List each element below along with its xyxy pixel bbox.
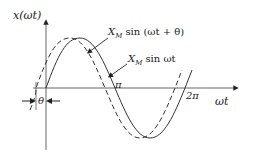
- reference-curve-label: XM sin ωt: [128, 54, 176, 64]
- y-axis-label: x(ωt): [13, 10, 41, 21]
- shifted-curve-label: XM sin (ωt + θ): [108, 27, 184, 37]
- tick-pi-label: π: [115, 80, 122, 90]
- tick-2pi-label: 2π: [186, 91, 199, 101]
- sine-phase-diagram: [0, 0, 256, 154]
- theta-label: θ: [38, 96, 44, 106]
- callout-arrow-shifted: [89, 38, 108, 52]
- callout-arrow-reference: [110, 64, 127, 76]
- x-axis-label: ωt: [215, 96, 228, 107]
